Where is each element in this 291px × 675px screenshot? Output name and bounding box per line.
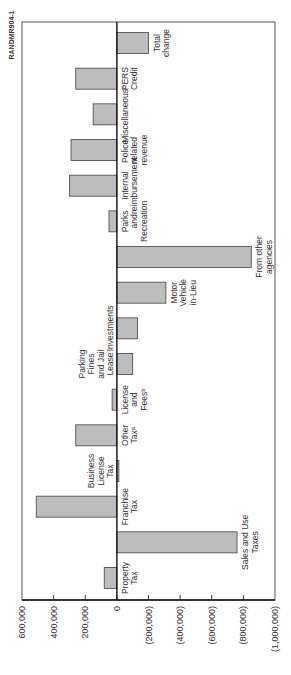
category-label: Internalreimbursement	[120, 157, 140, 214]
category-label: PERSCredit	[120, 67, 140, 91]
category-label: From otheragencies	[254, 236, 274, 278]
bar	[109, 211, 117, 232]
bar	[76, 68, 117, 89]
bar	[117, 354, 133, 375]
tick-label: (400,000)	[175, 606, 185, 645]
bar	[117, 247, 251, 268]
category-label: Totalchange	[152, 29, 172, 57]
bar	[69, 175, 116, 196]
tick-label: 400,000	[49, 606, 59, 639]
bar	[104, 568, 117, 589]
tick-label: (800,000)	[238, 606, 248, 645]
category-label: ParkingFinesand JailLease	[77, 349, 116, 378]
tick-label: (1,000,000)	[270, 606, 280, 652]
bar	[117, 318, 138, 339]
bar	[117, 282, 166, 303]
category-label: Sales and UseTaxes	[240, 514, 259, 570]
category-label: PropertyTax	[120, 561, 140, 594]
tick-label: 200,000	[80, 606, 90, 639]
tick-label: 0	[112, 606, 122, 611]
bar	[93, 104, 117, 125]
tick-label: (600,000)	[207, 606, 217, 645]
category-label: OtherTaxᵃ	[120, 425, 140, 446]
bar	[117, 33, 149, 54]
category-label: BusinessLicenseTax	[86, 454, 115, 489]
category-label: FranchiseTax	[120, 488, 140, 526]
bar-chart: 600,000400,000200,0000(200,000)(400,000)…	[0, 0, 291, 675]
bar	[112, 389, 117, 410]
bar	[117, 532, 237, 553]
bar	[76, 425, 117, 446]
tick-label: (200,000)	[144, 606, 154, 645]
category-label: Miscellaneousᶜ	[120, 86, 130, 143]
rotated-chart-container: 600,000400,000200,0000(200,000)(400,000)…	[0, 0, 291, 675]
category-label: MotorVehiclein-Lieu	[169, 279, 198, 307]
bars	[36, 33, 251, 589]
figure-code: RANDMR904-1	[8, 10, 15, 59]
bar	[71, 140, 117, 161]
category-label: Investments	[105, 305, 115, 351]
bar	[36, 496, 117, 517]
tick-label: 600,000	[17, 606, 27, 639]
category-label: LicenseandFeesᵇ	[120, 385, 149, 415]
